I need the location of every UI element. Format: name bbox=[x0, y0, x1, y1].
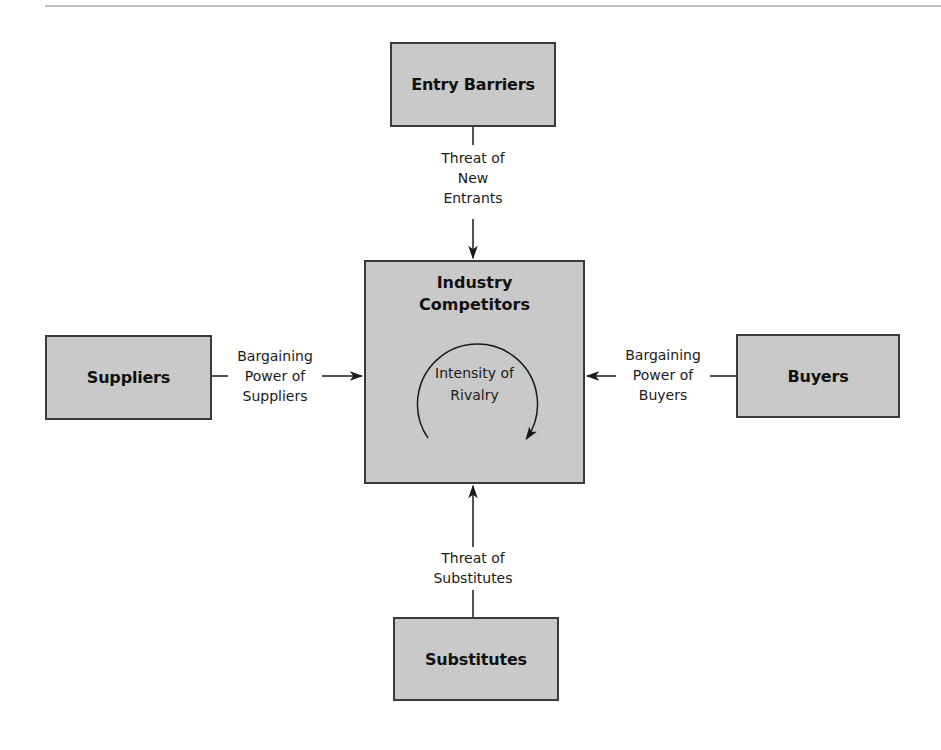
force-label-line: Power of bbox=[616, 365, 710, 385]
rivalry-line-1: Intensity of bbox=[366, 362, 583, 384]
substitutes-box: Substitutes bbox=[393, 617, 559, 701]
force-label-line: Bargaining bbox=[228, 346, 322, 366]
force-label-line: Suppliers bbox=[228, 386, 322, 406]
suppliers-box: Suppliers bbox=[45, 335, 212, 420]
force-label-line: Power of bbox=[228, 366, 322, 386]
force-label-line: Entrants bbox=[423, 188, 523, 208]
force-label-line: Threat of bbox=[423, 148, 523, 168]
substitutes-label: Substitutes bbox=[425, 650, 527, 669]
rivalry-line-2: Rivalry bbox=[366, 384, 583, 406]
force-label-line: Substitutes bbox=[418, 568, 528, 588]
threat-of-new-entrants-label: Threat of New Entrants bbox=[423, 148, 523, 208]
force-label-line: Bargaining bbox=[616, 345, 710, 365]
intensity-of-rivalry-label: Intensity of Rivalry bbox=[366, 362, 583, 406]
force-label-line: New bbox=[423, 168, 523, 188]
force-label-line: Buyers bbox=[616, 385, 710, 405]
bargaining-power-of-buyers-label: Bargaining Power of Buyers bbox=[616, 345, 710, 405]
bargaining-power-of-suppliers-label: Bargaining Power of Suppliers bbox=[228, 346, 322, 406]
entry-barriers-box: Entry Barriers bbox=[390, 42, 556, 127]
threat-of-substitutes-label: Threat of Substitutes bbox=[418, 548, 528, 588]
buyers-box: Buyers bbox=[736, 334, 900, 418]
entry-barriers-label: Entry Barriers bbox=[411, 75, 535, 94]
force-label-line: Threat of bbox=[418, 548, 528, 568]
buyers-label: Buyers bbox=[787, 367, 848, 386]
industry-competitors-box: Industry Competitors Intensity of Rivalr… bbox=[364, 260, 585, 484]
suppliers-label: Suppliers bbox=[87, 368, 170, 387]
